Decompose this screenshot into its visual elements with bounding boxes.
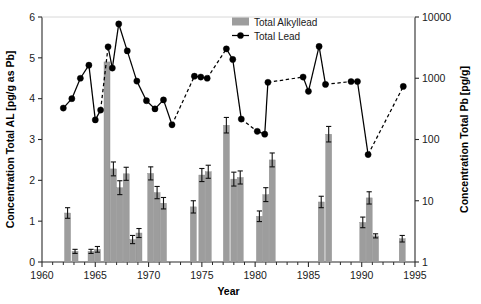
y-axis-left-tick-label: 2 [29,174,35,186]
y-axis-left-title: Concentration Total AL [pg/g as Pb] [4,51,16,229]
x-axis-tick-label: 1995 [403,269,427,281]
line-segment [127,51,137,81]
data-point-marker [116,21,122,27]
bar [154,193,160,262]
data-point-marker [191,73,197,79]
data-point-marker [77,75,83,81]
line-segment [207,49,226,78]
x-axis-tick-label: 1980 [243,269,267,281]
legend: Total AlkylleadTotal Lead [232,17,317,42]
bar [237,177,243,262]
bar-series-total-alkyllead [65,62,406,262]
data-point-marker [60,105,66,111]
bar [160,203,166,262]
bar [326,134,332,262]
bar [256,216,262,262]
line-segment [119,24,128,51]
bar [318,202,324,262]
legend-label-total-lead: Total Lead [254,31,300,42]
data-point-marker [134,78,140,84]
data-point-marker [400,83,406,89]
data-point-marker [354,78,360,84]
y-axis-right-tick-label: 10000 [422,11,451,23]
data-point-marker [105,44,111,50]
data-point-marker [198,74,204,80]
bar [366,198,372,262]
line-segment [268,77,303,82]
data-point-marker [322,81,328,87]
y-axis-right-tick-label: 1000 [422,72,446,84]
y-axis-left-tick-label: 6 [29,11,35,23]
data-point-marker [316,43,322,49]
data-point-marker [143,98,149,104]
chart-figure: 0123456110100100010000196019651970197519… [0,0,481,304]
x-axis-tick-label: 1960 [30,269,54,281]
data-point-marker [238,116,244,122]
y-axis-left-tick-label: 3 [29,133,35,145]
y-axis-left-tick-label: 5 [29,52,35,64]
line-segment [368,86,403,154]
line-segment [357,82,368,155]
data-point-marker [124,48,130,54]
bar [199,175,205,262]
data-point-marker [223,46,229,52]
legend-marker-total-lead [237,32,243,38]
bar [190,207,196,262]
bar [104,62,110,262]
line-segment [172,76,194,125]
bar [110,169,116,262]
data-point-marker [160,97,166,103]
line-segment [325,82,351,85]
bar [65,213,71,262]
line-segment [72,78,81,98]
line-segment [308,46,319,91]
x-axis-title: Year [217,285,239,297]
line-segment [233,59,242,119]
data-point-marker [262,131,268,137]
bar [223,125,229,262]
y-axis-right-tick-label: 10 [422,195,434,207]
line-segment [265,82,268,134]
line-segment [89,65,95,120]
y-axis-left-tick-label: 1 [29,215,35,227]
bar [263,195,269,262]
x-axis-tick-label: 1970 [137,269,161,281]
y-axis-right-tick-label: 100 [422,133,440,145]
bar [373,236,379,262]
data-point-marker [300,74,306,80]
line-segment [163,100,172,125]
bar [269,160,275,262]
line-segment [319,46,325,84]
data-point-marker [204,75,210,81]
x-axis-tick-label: 1965 [84,269,108,281]
bar [231,179,237,262]
y-axis-left-tick-label: 0 [29,256,35,268]
line-segment [112,24,118,68]
data-point-marker [169,122,175,128]
data-point-marker [305,88,311,94]
y-axis-right-tick-label: 1 [422,256,428,268]
line-series-total-lead [60,21,406,158]
chart-canvas: 0123456110100100010000196019651970197519… [0,0,481,304]
data-point-marker [98,107,104,113]
data-point-marker [152,106,158,112]
data-point-marker [109,65,115,71]
data-point-marker [365,152,371,158]
x-axis-tick-label: 1975 [190,269,214,281]
bar [148,173,154,262]
bar [360,222,366,262]
legend-swatch-total-alkyllead [232,18,249,26]
bar [123,174,129,262]
x-axis-tick-label: 1985 [297,269,321,281]
y-axis-left-tick-label: 4 [29,92,35,104]
data-point-marker [254,128,260,134]
y-axis-right-title: Concentration Total Pb [pg/g] [458,66,470,213]
bar [117,188,123,262]
data-point-marker [265,79,271,85]
data-point-marker [69,96,75,102]
bar [205,172,211,262]
data-point-marker [92,117,98,123]
x-axis-tick-label: 1990 [350,269,374,281]
data-point-marker [348,78,354,84]
data-point-marker [86,62,92,68]
